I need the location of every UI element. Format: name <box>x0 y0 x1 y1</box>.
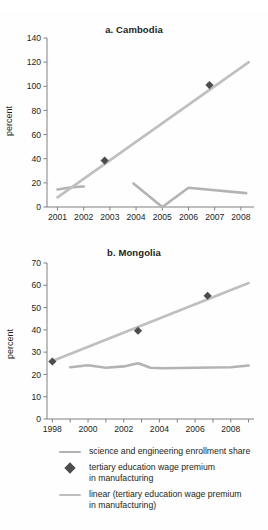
chart-panel-mongolia: b. Mongolia percent 01020304050607019982… <box>0 243 268 443</box>
svg-text:30: 30 <box>31 347 41 357</box>
legend-item-linear-trend: linear (tertiary education wage premium … <box>58 489 242 510</box>
svg-text:140: 140 <box>27 33 42 43</box>
svg-text:0: 0 <box>36 202 41 212</box>
svg-text:20: 20 <box>31 178 41 188</box>
legend-label-linear-trend-line1: linear (tertiary education wage premium <box>89 489 242 499</box>
svg-text:60: 60 <box>31 280 41 290</box>
svg-text:2007: 2007 <box>205 212 224 222</box>
svg-text:2006: 2006 <box>186 424 205 434</box>
svg-text:2003: 2003 <box>100 212 119 222</box>
svg-text:2002: 2002 <box>74 212 93 222</box>
legend-label-enrollment-share: science and engineering enrollment share <box>89 446 250 457</box>
svg-text:20: 20 <box>31 370 41 380</box>
svg-text:2004: 2004 <box>150 424 169 434</box>
legend-line-icon-trend <box>58 489 82 501</box>
svg-text:1998: 1998 <box>43 424 62 434</box>
svg-text:40: 40 <box>31 325 41 335</box>
svg-text:2005: 2005 <box>153 212 172 222</box>
svg-text:2008: 2008 <box>231 212 250 222</box>
svg-text:80: 80 <box>31 106 41 116</box>
legend-label-wage-premium: tertiary education wage premium in manuf… <box>89 462 215 483</box>
svg-text:0: 0 <box>36 414 41 424</box>
legend-label-linear-trend-line2: in manufacturing) <box>89 500 156 510</box>
svg-text:2000: 2000 <box>78 424 97 434</box>
svg-text:10: 10 <box>31 392 41 402</box>
plot-area-mongolia: 010203040506070199820002002200420062008 <box>0 243 268 443</box>
plot-area-cambodia: 0204060801001201402001200220032004200520… <box>0 11 268 235</box>
svg-text:120: 120 <box>27 57 42 67</box>
legend-item-wage-premium: tertiary education wage premium in manuf… <box>58 462 215 483</box>
svg-text:2002: 2002 <box>114 424 133 434</box>
svg-text:40: 40 <box>31 154 41 164</box>
svg-text:70: 70 <box>31 258 41 268</box>
legend-diamond-icon <box>58 462 82 474</box>
legend-label-wage-premium-line2: in manufacturing <box>89 473 153 483</box>
svg-text:2006: 2006 <box>179 212 198 222</box>
legend-line-icon <box>58 446 82 458</box>
svg-text:2004: 2004 <box>127 212 146 222</box>
svg-text:2001: 2001 <box>48 212 67 222</box>
legend-label-linear-trend: linear (tertiary education wage premium … <box>89 489 242 510</box>
figure-container: a. Cambodia percent 02040608010012014020… <box>0 0 268 530</box>
legend-item-enrollment-share: science and engineering enrollment share <box>58 446 250 458</box>
svg-text:100: 100 <box>27 81 42 91</box>
svg-text:2008: 2008 <box>221 424 240 434</box>
chart-legend: science and engineering enrollment share… <box>0 443 268 523</box>
legend-label-wage-premium-line1: tertiary education wage premium <box>89 462 215 472</box>
cropped-caption-strip <box>0 0 268 11</box>
svg-text:60: 60 <box>31 130 41 140</box>
chart-panel-cambodia: a. Cambodia percent 02040608010012014020… <box>0 11 268 235</box>
svg-text:50: 50 <box>31 303 41 313</box>
